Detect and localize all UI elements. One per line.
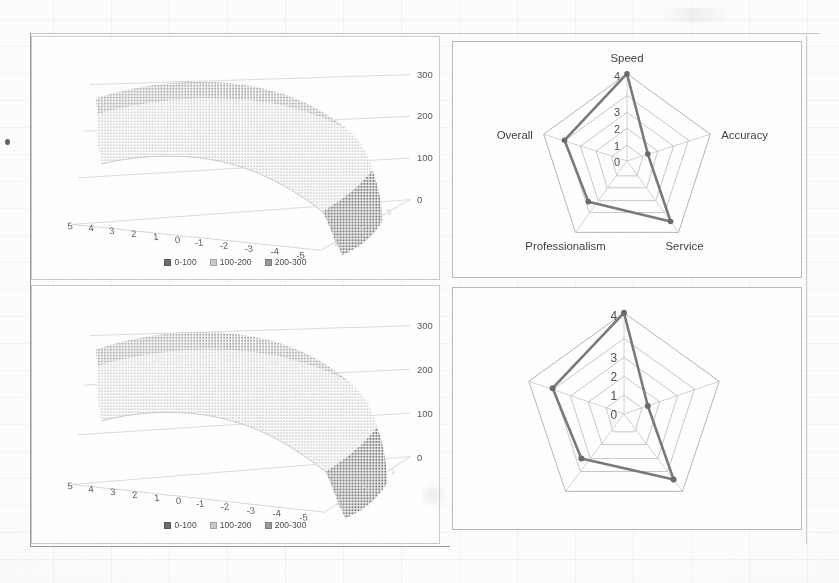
radar-label-professionalism: Professionalism bbox=[525, 240, 605, 252]
svg-text:4: 4 bbox=[610, 309, 617, 323]
surface-chart-top[interactable]: 300 200 100 0 5 4 3 2 1 0 -1 -2 -3 -4 -5 bbox=[31, 36, 440, 280]
svg-text:-4: -4 bbox=[272, 507, 282, 519]
legend-swatch-100-200 bbox=[210, 522, 217, 529]
svg-text:0: 0 bbox=[175, 495, 181, 506]
svg-text:4: 4 bbox=[614, 70, 620, 82]
surface-legend-top: 0-100 100-200 200-300 bbox=[32, 257, 439, 267]
svg-text:2: 2 bbox=[132, 489, 138, 500]
legend-swatch-200-300 bbox=[265, 259, 272, 266]
legend-swatch-100-200 bbox=[210, 259, 217, 266]
svg-text:0: 0 bbox=[417, 194, 422, 205]
svg-text:2: 2 bbox=[388, 465, 397, 476]
svg-text:2: 2 bbox=[131, 228, 137, 239]
svg-text:0: 0 bbox=[417, 452, 422, 463]
surface-band-100-200-top bbox=[97, 98, 372, 211]
svg-text:1: 1 bbox=[610, 389, 617, 403]
radar-chart-top[interactable]: 0 1 2 3 4 Speed Accuracy Service Profess… bbox=[452, 41, 802, 278]
svg-text:300: 300 bbox=[417, 69, 433, 80]
svg-text:4: 4 bbox=[88, 222, 94, 233]
legend-swatch-0-100 bbox=[164, 259, 171, 266]
legend-label-0-100: 0-100 bbox=[174, 520, 196, 530]
sheet-border-bottom bbox=[30, 546, 450, 547]
surface-band-100-200-bottom bbox=[97, 350, 377, 472]
legend-item-200-300[interactable]: 200-300 bbox=[265, 257, 307, 267]
sheet-border-right bbox=[806, 36, 807, 544]
svg-text:1: 1 bbox=[153, 492, 159, 503]
legend-item-100-200[interactable]: 100-200 bbox=[210, 520, 252, 530]
svg-text:2: 2 bbox=[384, 206, 393, 217]
legend-label-200-300: 200-300 bbox=[275, 257, 307, 267]
scanned-page: 300 200 100 0 5 4 3 2 1 0 -1 -2 -3 -4 -5 bbox=[0, 0, 839, 583]
surface-chart-bottom[interactable]: 300 200 100 0 5 4 3 2 1 0 -1 -2 -3 -4 -5… bbox=[31, 285, 440, 544]
scan-speck bbox=[5, 139, 10, 145]
legend-item-0-100[interactable]: 0-100 bbox=[164, 257, 196, 267]
svg-text:0: 0 bbox=[614, 156, 620, 168]
svg-text:-2: -2 bbox=[220, 500, 230, 512]
legend-label-200-300: 200-300 bbox=[275, 520, 307, 530]
svg-text:0: 0 bbox=[610, 408, 617, 422]
legend-item-0-100[interactable]: 0-100 bbox=[164, 520, 196, 530]
surface-xlabels-top: 5 4 3 2 1 0 -1 -2 -3 -4 -5 bbox=[67, 220, 305, 261]
svg-text:3: 3 bbox=[109, 225, 115, 236]
svg-text:-3: -3 bbox=[244, 242, 254, 254]
radar-label-service: Service bbox=[666, 240, 704, 252]
surface-plot-bottom: 300 200 100 0 5 4 3 2 1 0 -1 -2 -3 -4 -5… bbox=[32, 286, 439, 543]
svg-text:1: 1 bbox=[614, 140, 620, 152]
legend-item-100-200[interactable]: 100-200 bbox=[210, 257, 252, 267]
radar-plot-bottom: 0 1 2 3 4 bbox=[453, 288, 801, 529]
radar-label-overall: Overall bbox=[497, 129, 533, 141]
radar-label-accuracy: Accuracy bbox=[721, 129, 768, 141]
surface-zlabels-top: 300 200 100 0 bbox=[417, 69, 433, 205]
surface-plot-top: 300 200 100 0 5 4 3 2 1 0 -1 -2 -3 -4 -5 bbox=[32, 37, 439, 279]
legend-label-0-100: 0-100 bbox=[174, 257, 196, 267]
svg-text:2: 2 bbox=[614, 123, 620, 135]
svg-text:100: 100 bbox=[417, 408, 433, 419]
svg-text:100: 100 bbox=[417, 152, 433, 163]
surface-xlabels-bottom: 5 4 3 2 1 0 -1 -2 -3 -4 -5 bbox=[67, 480, 308, 523]
sheet-border-top bbox=[30, 33, 820, 34]
radar-category-labels-top: Speed Accuracy Service Professionalism O… bbox=[497, 52, 769, 252]
svg-text:-1: -1 bbox=[194, 236, 204, 248]
svg-text:5: 5 bbox=[67, 220, 73, 231]
svg-text:200: 200 bbox=[417, 364, 433, 375]
legend-item-200-300[interactable]: 200-300 bbox=[265, 520, 307, 530]
legend-swatch-0-100 bbox=[164, 522, 171, 529]
svg-text:-1: -1 bbox=[195, 497, 205, 509]
svg-text:200: 200 bbox=[417, 110, 433, 121]
legend-label-100-200: 100-200 bbox=[220, 257, 252, 267]
surface-zlabels-bottom: 300 200 100 0 bbox=[417, 320, 433, 463]
svg-text:1: 1 bbox=[152, 231, 158, 242]
radar-label-speed: Speed bbox=[611, 52, 644, 64]
svg-text:2: 2 bbox=[610, 370, 617, 384]
svg-text:3: 3 bbox=[610, 351, 617, 365]
svg-text:5: 5 bbox=[67, 480, 73, 491]
radar-plot-top: 0 1 2 3 4 Speed Accuracy Service Profess… bbox=[453, 42, 801, 277]
svg-text:300: 300 bbox=[417, 320, 433, 331]
svg-text:-2: -2 bbox=[219, 239, 229, 251]
svg-text:3: 3 bbox=[110, 486, 116, 497]
svg-text:-4: -4 bbox=[270, 245, 280, 257]
legend-label-100-200: 100-200 bbox=[220, 520, 252, 530]
surface-legend-bottom: 0-100 100-200 200-300 bbox=[32, 520, 439, 530]
legend-swatch-200-300 bbox=[265, 522, 272, 529]
radar-chart-bottom[interactable]: 0 1 2 3 4 bbox=[452, 287, 802, 530]
svg-text:3: 3 bbox=[614, 106, 620, 118]
svg-text:-3: -3 bbox=[246, 504, 256, 516]
svg-text:4: 4 bbox=[88, 483, 94, 494]
scan-smudge-top bbox=[660, 8, 730, 22]
